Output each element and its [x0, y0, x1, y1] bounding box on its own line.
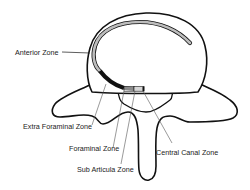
foraminal-zone-leader	[113, 91, 124, 148]
label-foraminal-zone: Foraminal Zone	[69, 144, 119, 153]
sub-articular-zone-leader	[121, 91, 135, 164]
vertebra-zone-diagram: Anterior Zone Extra Foraminal Zone Foram…	[0, 0, 250, 190]
central-canal-zone-end-cap	[143, 87, 145, 92]
label-anterior-zone: Anterior Zone	[15, 48, 59, 57]
central-canal-zone-leader	[143, 91, 172, 143]
label-central-canal-zone: Central Canal Zone	[156, 148, 218, 157]
anterior-zone-leader	[62, 52, 90, 53]
disc-body-outline	[87, 13, 207, 94]
sub-articular-zone-band	[124, 88, 134, 89]
label-sub-articular-zone: Sub Articula Zone	[77, 165, 134, 174]
label-extra-foraminal-zone: Extra Foraminal Zone	[23, 122, 92, 131]
